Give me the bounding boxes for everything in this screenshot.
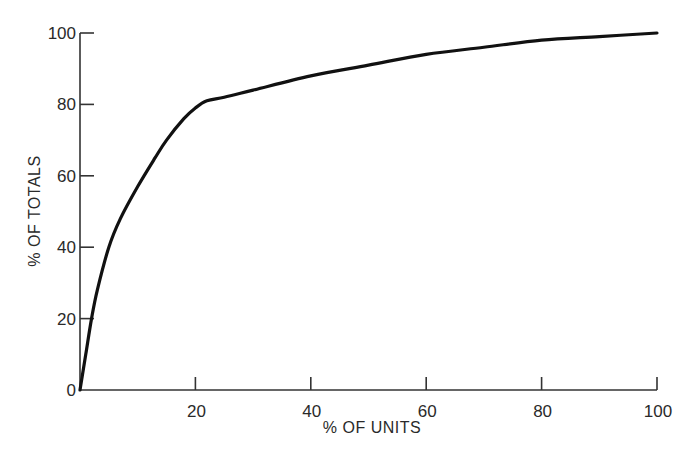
x-tick-label: 100 (644, 402, 672, 421)
cumulative-curve (80, 33, 657, 390)
y-axis-title: % OF TOTALS (26, 155, 43, 266)
x-tick-label: 40 (302, 402, 321, 421)
x-axis-title: % OF UNITS (323, 419, 421, 436)
axes (80, 33, 657, 390)
y-tick-label: 60 (57, 167, 76, 186)
y-tick-label: 40 (57, 238, 76, 257)
y-tick-label: 100 (48, 24, 76, 43)
x-tick-label: 20 (187, 402, 206, 421)
pareto-chart: 020406080100 20406080100 % OF UNITS % OF… (0, 0, 694, 458)
y-tick-label: 0 (67, 381, 76, 400)
y-tick-label: 80 (57, 95, 76, 114)
y-tick-label: 20 (57, 310, 76, 329)
x-tick-label: 80 (533, 402, 552, 421)
x-axis-ticks: 20406080100 (187, 377, 672, 421)
